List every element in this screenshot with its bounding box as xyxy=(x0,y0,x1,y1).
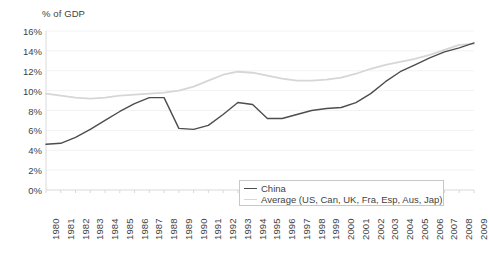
chart-legend: China Average (US, Can, UK, Fra, Esp, Au… xyxy=(239,180,444,206)
x-axis-tick-label: 1990 xyxy=(198,218,209,240)
x-axis-tick-label: 1998 xyxy=(316,218,327,240)
x-axis-tick-label: 1989 xyxy=(183,218,194,240)
x-axis-tick-label: 2000 xyxy=(345,218,356,240)
x-axis-tick-label: 2003 xyxy=(389,218,400,240)
x-axis-tick-label: 2008 xyxy=(463,218,474,240)
x-axis-tick-label: 2001 xyxy=(360,218,371,240)
x-axis-tick-label: 1991 xyxy=(212,218,223,240)
x-axis-tick-label: 1981 xyxy=(65,218,76,240)
x-axis-tick-label: 1995 xyxy=(271,218,282,240)
x-axis-tick-label: 2002 xyxy=(375,218,386,240)
x-axis-tick-label: 1983 xyxy=(94,218,105,240)
x-axis-tick-label: 2004 xyxy=(404,218,415,240)
x-axis-tick-label: 1980 xyxy=(50,218,61,240)
x-axis-tick-label: 1985 xyxy=(124,218,135,240)
legend-swatch-china xyxy=(244,188,257,189)
legend-swatch-average xyxy=(244,199,257,200)
x-axis-tick-label: 2005 xyxy=(419,218,430,240)
x-axis-tick-label: 1987 xyxy=(153,218,164,240)
legend-label-china: China xyxy=(261,183,286,194)
x-axis-tick-label: 1982 xyxy=(80,218,91,240)
x-axis-tick-label: 1992 xyxy=(227,218,238,240)
x-axis-tick-label: 2006 xyxy=(434,218,445,240)
x-axis-tick-label: 2009 xyxy=(478,218,489,240)
x-axis-tick-label: 1999 xyxy=(330,218,341,240)
x-axis-tick-label: 1988 xyxy=(168,218,179,240)
x-axis-tick-label: 1986 xyxy=(139,218,150,240)
x-axis-tick-label: 1997 xyxy=(301,218,312,240)
legend-item-average: Average (US, Can, UK, Fra, Esp, Aus, Jap… xyxy=(244,194,439,205)
legend-item-china: China xyxy=(244,183,439,194)
x-axis-tick-label: 1994 xyxy=(257,218,268,240)
x-axis-tick-label: 1996 xyxy=(286,218,297,240)
x-axis-tick-label: 1984 xyxy=(109,218,120,240)
x-axis-tick-label: 1993 xyxy=(242,218,253,240)
x-axis-tick-label: 2007 xyxy=(448,218,459,240)
legend-label-average: Average (US, Can, UK, Fra, Esp, Aus, Jap… xyxy=(261,194,442,205)
